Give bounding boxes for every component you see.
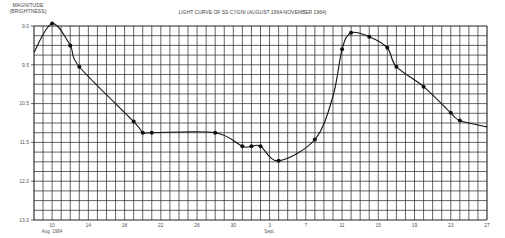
data-point [449,111,453,115]
x-tick-label: 30 [231,222,237,228]
data-point [240,144,244,148]
x-tick-label: 19 [412,222,418,228]
x-axis: 10Aug. 196414182226303Sept.71115192327 [42,222,490,234]
x-tick-label: 11 [339,222,344,228]
y-tick-label: 9.5 [22,62,29,68]
x-tick-label: 27 [484,222,490,228]
data-point [150,131,154,135]
y-tick-label: 12.0 [19,178,29,184]
x-tick-sublabel: Aug. 1964 [42,229,63,234]
y-axis: 9.09.510.511.512.013.0 [19,23,34,223]
data-point [249,144,253,148]
x-tick-label: 15 [375,222,381,228]
x-tick-label: 3 [268,222,271,228]
x-tick-sublabel: Sept. [264,229,275,234]
data-point [394,65,398,69]
data-point [367,35,371,39]
data-point [68,43,72,47]
data-point [132,120,136,124]
data-point [213,131,217,135]
data-point [349,31,353,35]
light-curve-chart: 9.09.510.511.512.013.0 10Aug. 1964141822… [0,0,505,238]
data-point [385,46,389,50]
data-point [340,47,344,51]
y-tick-label: 11.5 [20,139,30,145]
x-tick-label: 26 [194,222,200,228]
data-point [458,119,462,123]
x-tick-label: 10 [49,222,55,228]
x-tick-label: 18 [122,222,128,228]
data-point [277,159,281,163]
data-point [141,131,145,135]
data-point [259,144,263,148]
x-tick-label: 7 [304,222,307,228]
y-tick-label: 10.5 [19,100,29,106]
data-point [50,22,54,26]
y-tick-label: 9.0 [22,23,29,29]
data-point [313,137,317,141]
x-tick-label: 14 [86,222,92,228]
x-tick-label: 22 [158,222,164,228]
x-tick-label: 23 [448,222,454,228]
data-point [77,65,81,69]
data-point [422,85,426,89]
y-tick-label: 13.0 [19,217,29,223]
grid [34,26,487,220]
